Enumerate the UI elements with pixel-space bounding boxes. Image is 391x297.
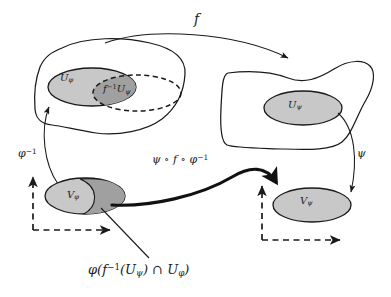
U-psi-ellipse [264, 91, 342, 125]
manifold-transition-diagram: f Uφ f−1Uψ Uψ φ−1 ψ ∘ f ∘ φ−1 ψ Vφ Vψ φ(… [0, 0, 391, 297]
label-transition-map: ψ ∘ f ∘ φ−1 [152, 154, 208, 165]
transition-arrow [112, 169, 276, 205]
f-arrow [105, 34, 288, 58]
label-map-f: f [194, 12, 199, 26]
diagram-canvas [0, 0, 391, 297]
psi-arrow [338, 113, 355, 192]
label-U-phi: Uφ [60, 73, 73, 84]
label-phi-inverse: φ−1 [18, 148, 37, 159]
label-psi: ψ [357, 148, 366, 159]
caption-leader-line [101, 208, 149, 258]
label-V-psi: Vψ [300, 196, 313, 207]
label-V-phi: Vφ [67, 190, 79, 201]
label-f-inverse-U-psi: f−1Uψ [103, 84, 131, 95]
label-U-psi: Uψ [288, 100, 302, 111]
caption-phi-of-intersection: φ(f−1(Uψ) ∩ Uφ) [88, 263, 189, 278]
phi-inverse-arrow [44, 107, 58, 184]
